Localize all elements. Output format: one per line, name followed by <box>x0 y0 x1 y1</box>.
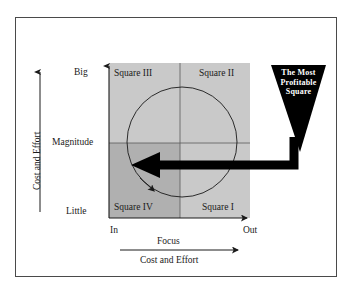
x-axis-title: Focus <box>157 237 180 247</box>
callout-line-2: Profitable <box>271 78 326 88</box>
callout-line-1: The Most <box>271 68 326 78</box>
y-axis-title: Cost and Effort <box>33 132 43 190</box>
y-tick-magnitude: Magnitude <box>52 138 93 148</box>
callout-line-3: Square <box>271 87 326 97</box>
quadrant-label-square-i: Square I <box>202 203 234 213</box>
y-tick-big: Big <box>74 68 88 78</box>
figure-container: Square III Square II Square IV Square I … <box>0 0 352 292</box>
quadrant-label-square-iii: Square III <box>114 69 152 79</box>
x-tick-in: In <box>110 226 118 236</box>
y-tick-little: Little <box>66 207 87 217</box>
x-axis-subtitle: Cost and Effort <box>140 256 198 266</box>
quadrant-label-square-ii: Square II <box>199 69 234 79</box>
quadrant-label-square-iv: Square IV <box>114 203 153 213</box>
x-tick-out: Out <box>243 226 257 236</box>
